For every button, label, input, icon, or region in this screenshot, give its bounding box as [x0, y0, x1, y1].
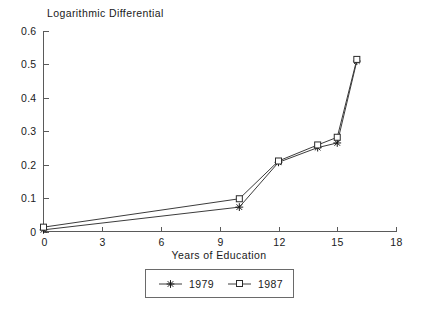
chart-figure: Logarithmic Differential 00.10.20.30.40.… [0, 0, 425, 319]
x-tick-label: 0 [41, 236, 47, 248]
star-marker-legend [167, 280, 175, 288]
x-tick-label: 12 [273, 236, 285, 248]
chart-legend: 1979 1987 [146, 270, 294, 298]
y-tick-label: 0.5 [21, 58, 37, 70]
y-tick-label: 0.1 [21, 192, 37, 204]
square-marker [315, 142, 321, 148]
y-tick-label: 0.4 [21, 92, 37, 104]
x-tick-label: 15 [331, 236, 343, 248]
x-tick-label: 6 [158, 236, 164, 248]
y-tick-label: 0.2 [21, 159, 37, 171]
square-marker [354, 56, 360, 62]
x-tick-label: 9 [217, 236, 223, 248]
star-marker [235, 203, 243, 211]
square-marker-legend [237, 281, 243, 287]
x-tick-label: 18 [390, 236, 402, 248]
square-marker [276, 158, 282, 164]
legend-label-1979: 1979 [189, 278, 214, 290]
legend-label-1987: 1987 [258, 278, 283, 290]
y-tick-label: 0 [30, 226, 36, 238]
logarithmic-differential-line-chart: Logarithmic Differential 00.10.20.30.40.… [0, 0, 425, 319]
chart-title: Logarithmic Differential [47, 7, 164, 19]
x-axis-label: Years of Education [172, 249, 267, 261]
y-tick-label: 0.6 [21, 25, 37, 37]
y-tick-label: 0.3 [21, 125, 37, 137]
x-tick-label: 3 [99, 236, 105, 248]
square-marker [334, 134, 340, 140]
square-marker [41, 224, 47, 230]
square-marker [236, 196, 242, 202]
